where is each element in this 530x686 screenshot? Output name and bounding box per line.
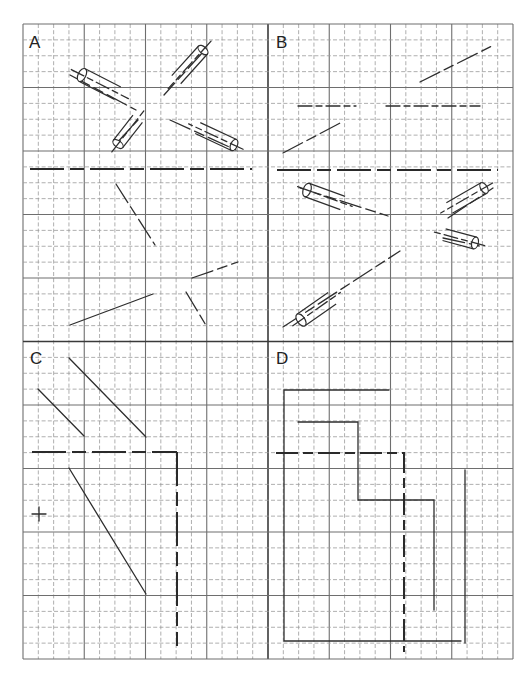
panel-c-line — [38, 389, 84, 436]
drawing-lines — [30, 45, 498, 652]
cylinders — [68, 37, 496, 331]
panel-b-line — [420, 45, 494, 82]
panel-label-c: C — [30, 350, 42, 367]
grid-paper — [23, 24, 513, 659]
panel-a-line — [192, 262, 238, 278]
panel-b-line — [283, 121, 344, 153]
panel-c-line — [69, 468, 146, 594]
panel-label-b: B — [276, 34, 287, 51]
grid-diagram-canvas — [0, 0, 530, 686]
panel-c-line — [69, 358, 146, 437]
panel-b-cylinder — [289, 287, 345, 332]
panel-a-line — [164, 52, 203, 95]
panel-c-line — [32, 507, 46, 521]
panel-a-cylinder — [164, 37, 216, 93]
panel-b-cylinder — [295, 180, 354, 213]
panel-d-line — [276, 453, 404, 652]
panel-label-a: A — [29, 34, 40, 51]
panel-a-cylinder — [186, 118, 245, 154]
panel-label-d: D — [276, 350, 288, 367]
